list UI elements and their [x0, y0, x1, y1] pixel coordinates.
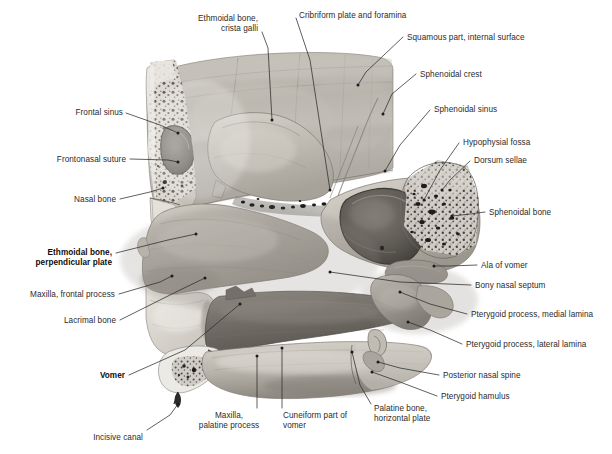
- label-ala-of-vomer: Ala of vomer: [481, 261, 528, 271]
- label-cuneiform-part-of-vomer: Cuneiform part of vomer: [283, 411, 347, 431]
- label-incisive-canal: Incisive canal: [93, 433, 143, 443]
- label-sphenoidal-crest: Sphenoidal crest: [420, 70, 482, 80]
- leader-endpoint-cribriform-plate-and-foramina: [329, 189, 332, 192]
- label-maxilla-palatine-process: Maxilla, palatine process: [169, 411, 289, 431]
- leader-endpoint-frontal-sinus: [177, 132, 180, 135]
- leader-endpoint-pterygoid-process-lateral-lamina: [407, 321, 410, 324]
- anatomy-illustration: [0, 0, 612, 454]
- leader-endpoint-ethmoidal-bone-crista-galli: [271, 119, 274, 122]
- leader-endpoint-cuneiform-part-of-vomer: [281, 347, 284, 350]
- label-frontal-sinus: Frontal sinus: [75, 108, 123, 118]
- label-bony-nasal-septum: Bony nasal septum: [475, 281, 545, 291]
- leader-endpoint-sphenoidal-sinus: [384, 170, 387, 173]
- hard-palate-region: [202, 342, 431, 399]
- leader-endpoint-pterygoid-process-medial-lamina: [399, 291, 402, 294]
- leader-endpoint-incisive-canal: [177, 403, 180, 406]
- leader-endpoint-ethmoidal-bone-perpendicular-plate: [195, 233, 198, 236]
- label-vomer: Vomer: [100, 371, 125, 381]
- leader-endpoint-palatine-bone-horizontal-plate: [351, 351, 354, 354]
- anatomy-figure: Ethmoidal bone, crista galliCribriform p…: [0, 0, 612, 454]
- label-sphenoidal-sinus: Sphenoidal sinus: [434, 105, 497, 115]
- label-hypophysial-fossa: Hypophysial fossa: [463, 138, 530, 148]
- label-palatine-bone-horizontal-plate: Palatine bone, horizontal plate: [374, 404, 430, 424]
- label-pterygoid-hamulus: Pterygoid hamulus: [441, 392, 510, 402]
- label-ethmoidal-bone-crista-galli: Ethmoidal bone, crista galli: [198, 14, 258, 34]
- leader-endpoint-bony-nasal-septum: [329, 271, 332, 274]
- leader-endpoint-sphenoidal-bone: [451, 215, 454, 218]
- leader-endpoint-maxilla-palatine-process: [256, 355, 259, 358]
- label-pterygoid-process-lateral-lamina: Pterygoid process, lateral lamina: [466, 340, 586, 350]
- leader-endpoint-frontonasal-suture: [177, 161, 180, 164]
- label-frontonasal-suture: Frontonasal suture: [57, 155, 126, 165]
- label-nasal-bone: Nasal bone: [74, 195, 116, 205]
- label-pterygoid-process-medial-lamina: Pterygoid process, medial lamina: [471, 310, 593, 320]
- leader-endpoint-dorsum-sellae: [441, 189, 444, 192]
- leader-endpoint-hypophysial-fossa: [423, 199, 426, 202]
- label-cribriform-plate-and-foramina: Cribriform plate and foramina: [299, 11, 406, 21]
- label-sphenoidal-bone: Sphenoidal bone: [489, 208, 551, 218]
- label-ethmoidal-bone-perpendicular-plate: Ethmoidal bone, perpendicular plate: [36, 248, 112, 268]
- leader-endpoint-squamous-part-internal-surface: [357, 84, 360, 87]
- label-dorsum-sellae: Dorsum sellae: [474, 156, 527, 166]
- leader-endpoint-sphenoidal-crest: [382, 113, 385, 116]
- leader-endpoint-maxilla-frontal-process: [171, 275, 174, 278]
- leader-endpoint-lacrimal-bone: [204, 277, 207, 280]
- leader-endpoint-posterior-nasal-spine: [377, 361, 380, 364]
- leader-endpoint-nasal-bone: [162, 187, 165, 190]
- leader-endpoint-vomer: [239, 303, 242, 306]
- leader-endpoint-pterygoid-hamulus: [371, 371, 374, 374]
- label-squamous-part-internal-surface: Squamous part, internal surface: [407, 33, 525, 43]
- label-posterior-nasal-spine: Posterior nasal spine: [443, 371, 521, 381]
- label-lacrimal-bone: Lacrimal bone: [64, 316, 116, 326]
- leader-endpoint-ala-of-vomer: [433, 265, 436, 268]
- label-maxilla-frontal-process: Maxilla, frontal process: [30, 290, 115, 300]
